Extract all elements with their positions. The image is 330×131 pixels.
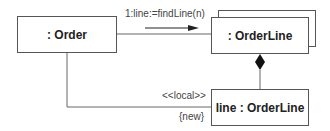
line-label: line : OrderLine <box>216 101 305 115</box>
message-label: 1:line:=findLine(n) <box>125 8 205 19</box>
local-stereotype-label: <<local>> <box>162 90 206 101</box>
new-constraint-label: {new} <box>179 111 204 122</box>
composition-diamond-icon <box>255 54 265 70</box>
message-arrow-icon <box>188 25 199 31</box>
orderline-multiobject[interactable]: : OrderLine <box>211 17 309 54</box>
order-object[interactable]: : Order <box>17 16 117 53</box>
orderline-label: : OrderLine <box>228 29 293 43</box>
order-label: : Order <box>47 28 87 42</box>
line-object[interactable]: line : OrderLine <box>211 89 309 126</box>
